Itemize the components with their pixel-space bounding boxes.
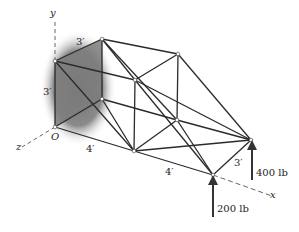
- truss-diagram: [0, 0, 299, 232]
- x-axis: [213, 175, 272, 196]
- load-label-400: 400 lb: [256, 168, 288, 178]
- dim-bottom-length: 4′: [86, 144, 95, 154]
- origin-label: O: [51, 132, 59, 142]
- dim-right-depth: 3′: [234, 158, 243, 168]
- dim-top-depth: 3′: [76, 37, 85, 47]
- load-label-200: 200 lb: [217, 204, 249, 214]
- y-axis-label: y: [50, 8, 56, 18]
- dim-height: 3′: [43, 87, 52, 97]
- x-axis-label: x: [270, 190, 276, 200]
- z-axis-label: z: [16, 142, 21, 152]
- dim-right-length: 4′: [165, 167, 174, 177]
